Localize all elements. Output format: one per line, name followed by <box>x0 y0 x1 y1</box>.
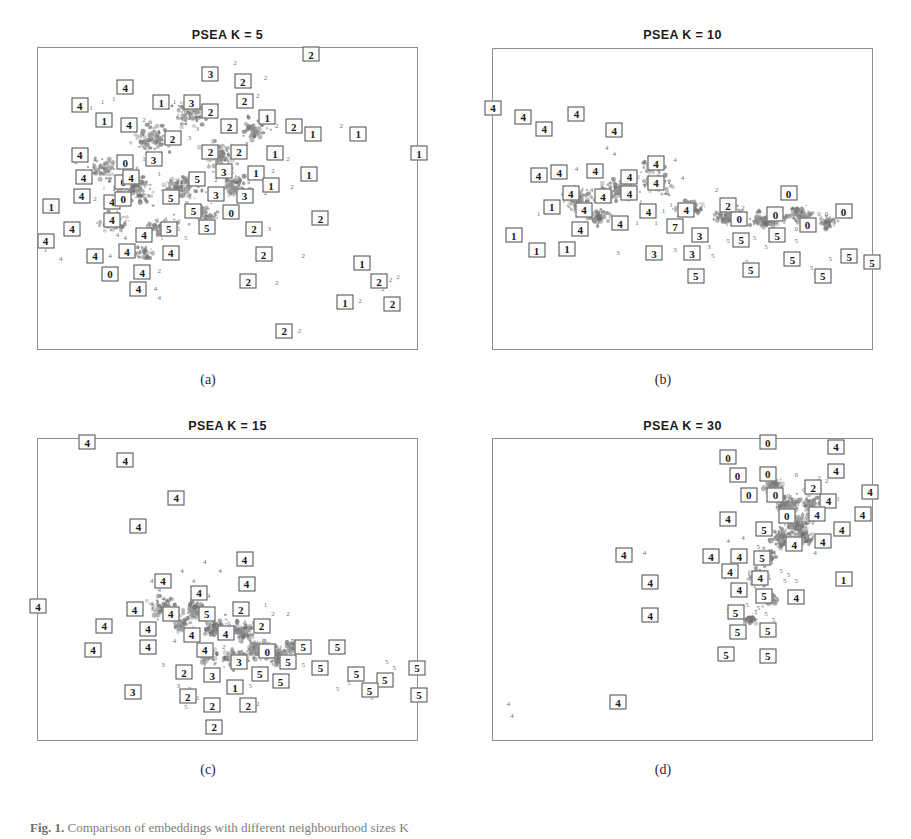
boxed-point-label-4[interactable]: 4 <box>648 175 665 190</box>
boxed-point-label-2[interactable]: 2 <box>221 119 238 134</box>
boxed-point-label-4[interactable]: 4 <box>121 117 138 132</box>
boxed-point-label-1[interactable]: 1 <box>301 167 318 182</box>
boxed-point-label-4[interactable]: 4 <box>854 507 871 522</box>
boxed-point-label-4[interactable]: 4 <box>217 626 234 641</box>
boxed-point-label-4[interactable]: 4 <box>587 163 604 178</box>
boxed-point-label-3[interactable]: 3 <box>124 684 141 699</box>
boxed-point-label-4[interactable]: 4 <box>612 216 629 231</box>
boxed-point-label-5[interactable]: 5 <box>198 220 215 235</box>
boxed-point-label-0[interactable]: 0 <box>720 450 737 465</box>
boxed-point-label-1[interactable]: 1 <box>263 178 280 193</box>
boxed-point-label-4[interactable]: 4 <box>119 244 136 259</box>
boxed-point-label-1[interactable]: 1 <box>96 113 113 128</box>
boxed-point-label-1[interactable]: 1 <box>543 199 560 214</box>
boxed-point-label-4[interactable]: 4 <box>139 639 156 654</box>
boxed-point-label-5[interactable]: 5 <box>361 683 378 698</box>
boxed-point-label-1[interactable]: 1 <box>410 146 427 161</box>
boxed-point-label-4[interactable]: 4 <box>117 453 134 468</box>
boxed-point-label-4[interactable]: 4 <box>828 463 845 478</box>
boxed-point-label-4[interactable]: 4 <box>134 265 151 280</box>
boxed-point-label-4[interactable]: 4 <box>136 227 153 242</box>
boxed-point-label-3[interactable]: 3 <box>215 164 232 179</box>
boxed-point-label-2[interactable]: 2 <box>236 93 253 108</box>
boxed-point-label-0[interactable]: 0 <box>767 487 784 502</box>
boxed-point-label-7[interactable]: 7 <box>666 219 683 234</box>
boxed-point-label-4[interactable]: 4 <box>155 573 172 588</box>
boxed-point-label-2[interactable]: 2 <box>312 211 329 226</box>
boxed-point-label-5[interactable]: 5 <box>348 666 365 681</box>
boxed-point-label-0[interactable]: 0 <box>259 644 276 659</box>
boxed-point-label-4[interactable]: 4 <box>139 621 156 636</box>
boxed-point-label-5[interactable]: 5 <box>759 623 776 638</box>
boxed-point-label-4[interactable]: 4 <box>551 165 568 180</box>
boxed-point-label-4[interactable]: 4 <box>731 549 748 564</box>
boxed-point-label-4[interactable]: 4 <box>814 534 831 549</box>
boxed-point-label-4[interactable]: 4 <box>79 435 96 450</box>
boxed-point-label-0[interactable]: 0 <box>767 207 784 222</box>
boxed-point-label-0[interactable]: 0 <box>731 211 748 226</box>
boxed-point-label-2[interactable]: 2 <box>276 323 293 338</box>
boxed-point-label-5[interactable]: 5 <box>160 221 177 236</box>
boxed-point-label-2[interactable]: 2 <box>302 47 319 62</box>
boxed-point-label-4[interactable]: 4 <box>103 212 120 227</box>
boxed-point-label-4[interactable]: 4 <box>73 188 90 203</box>
boxed-point-label-2[interactable]: 2 <box>206 719 223 734</box>
boxed-point-label-0[interactable]: 0 <box>799 217 816 232</box>
boxed-point-label-4[interactable]: 4 <box>183 627 200 642</box>
boxed-point-label-3[interactable]: 3 <box>183 95 200 110</box>
boxed-point-label-5[interactable]: 5 <box>280 654 297 669</box>
boxed-point-label-2[interactable]: 2 <box>253 618 270 633</box>
boxed-point-label-4[interactable]: 4 <box>731 582 748 597</box>
boxed-point-label-0[interactable]: 0 <box>778 508 795 523</box>
boxed-point-label-1[interactable]: 1 <box>259 110 276 125</box>
boxed-point-label-2[interactable]: 2 <box>230 144 247 159</box>
boxed-point-label-4[interactable]: 4 <box>122 170 139 185</box>
boxed-point-label-4[interactable]: 4 <box>720 511 737 526</box>
boxed-point-label-4[interactable]: 4 <box>64 221 81 236</box>
boxed-point-label-4[interactable]: 4 <box>642 575 659 590</box>
boxed-point-label-3[interactable]: 3 <box>684 246 701 261</box>
boxed-point-label-4[interactable]: 4 <box>515 109 532 124</box>
boxed-point-label-5[interactable]: 5 <box>754 550 771 565</box>
boxed-point-label-4[interactable]: 4 <box>610 695 627 710</box>
boxed-point-label-3[interactable]: 3 <box>208 187 225 202</box>
boxed-point-label-1[interactable]: 1 <box>835 572 852 587</box>
boxed-point-label-4[interactable]: 4 <box>786 537 803 552</box>
boxed-point-label-2[interactable]: 2 <box>202 144 219 159</box>
boxed-point-label-3[interactable]: 3 <box>691 228 708 243</box>
boxed-point-label-4[interactable]: 4 <box>117 80 134 95</box>
boxed-point-label-5[interactable]: 5 <box>718 647 735 662</box>
boxed-point-label-5[interactable]: 5 <box>864 255 881 270</box>
boxed-point-label-5[interactable]: 5 <box>329 639 346 654</box>
boxed-point-label-4[interactable]: 4 <box>621 186 638 201</box>
boxed-point-label-4[interactable]: 4 <box>809 507 826 522</box>
boxed-point-label-1[interactable]: 1 <box>337 295 354 310</box>
boxed-point-label-1[interactable]: 1 <box>354 256 371 271</box>
boxed-point-label-3[interactable]: 3 <box>204 668 221 683</box>
boxed-point-label-2[interactable]: 2 <box>179 689 196 704</box>
boxed-point-label-0[interactable]: 0 <box>102 266 119 281</box>
boxed-point-label-2[interactable]: 2 <box>202 104 219 119</box>
boxed-point-label-4[interactable]: 4 <box>678 202 695 217</box>
boxed-point-label-4[interactable]: 4 <box>86 248 103 263</box>
boxed-point-label-4[interactable]: 4 <box>85 642 102 657</box>
boxed-point-label-5[interactable]: 5 <box>733 232 750 247</box>
boxed-point-label-4[interactable]: 4 <box>862 484 879 499</box>
boxed-point-label-4[interactable]: 4 <box>621 169 638 184</box>
boxed-point-label-2[interactable]: 2 <box>232 602 249 617</box>
boxed-point-label-2[interactable]: 2 <box>285 119 302 134</box>
boxed-point-label-4[interactable]: 4 <box>30 599 47 614</box>
boxed-point-label-4[interactable]: 4 <box>196 642 213 657</box>
boxed-point-label-4[interactable]: 4 <box>568 106 585 121</box>
boxed-point-label-3[interactable]: 3 <box>646 246 663 261</box>
boxed-point-label-5[interactable]: 5 <box>162 190 179 205</box>
boxed-point-label-4[interactable]: 4 <box>130 281 147 296</box>
boxed-point-label-5[interactable]: 5 <box>756 522 773 537</box>
boxed-point-label-1[interactable]: 1 <box>505 228 522 243</box>
boxed-point-label-4[interactable]: 4 <box>236 552 253 567</box>
boxed-point-label-0[interactable]: 0 <box>223 205 240 220</box>
boxed-point-label-4[interactable]: 4 <box>536 121 553 136</box>
boxed-point-label-5[interactable]: 5 <box>756 588 773 603</box>
boxed-point-label-4[interactable]: 4 <box>615 547 632 562</box>
boxed-point-label-2[interactable]: 2 <box>371 274 388 289</box>
